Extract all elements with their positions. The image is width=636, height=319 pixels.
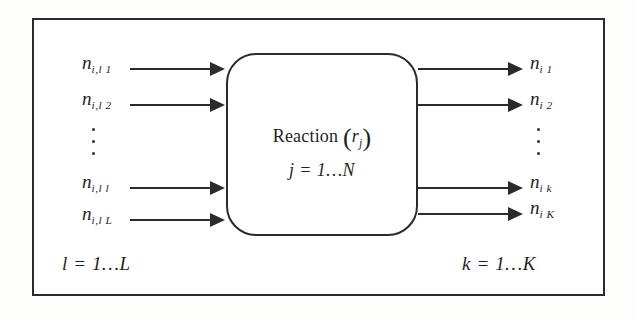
output-arrow-2-line	[418, 104, 508, 106]
input-arrow-1-line	[130, 68, 210, 70]
close-paren: )	[362, 123, 371, 152]
reaction-block-text: Reaction (rj) j = 1…N	[226, 118, 418, 184]
reaction-rate-symbol: rj	[352, 126, 363, 146]
output-arrow-3-line	[418, 187, 508, 189]
input-arrow-2-head	[210, 98, 225, 112]
output-arrow-1	[418, 68, 523, 70]
output-label-4-subscript: i K	[540, 208, 555, 220]
output-arrow-4-line	[418, 213, 508, 215]
input-label-3-subscript: i,l l	[92, 182, 110, 194]
reaction-block-diagram: Reaction (rj) j = 1…N ni,l 1 ni,l 2 ni,l…	[0, 0, 636, 319]
input-label-2: ni,l 2	[82, 88, 112, 111]
input-arrow-4-line	[130, 219, 210, 221]
output-ellipsis-dot-1	[537, 128, 540, 131]
input-ellipsis-dot-2	[92, 140, 95, 143]
input-arrow-3-line	[130, 187, 210, 189]
input-label-2-subscript: i,l 2	[92, 99, 112, 111]
input-vertical-ellipsis	[92, 128, 95, 164]
open-paren: (	[343, 123, 352, 152]
input-arrow-1	[130, 68, 226, 70]
reaction-index-range: j = 1…N	[226, 157, 418, 184]
output-label-4-symbol: n	[530, 197, 540, 218]
reaction-block-title: Reaction (rj)	[226, 118, 418, 157]
output-arrow-1-line	[418, 68, 508, 70]
output-ellipsis-dot-3	[537, 152, 540, 155]
output-arrow-2	[418, 104, 523, 106]
input-range-label: l = 1…L	[62, 253, 131, 275]
output-arrow-1-head	[508, 62, 523, 76]
input-arrow-2	[130, 104, 226, 106]
rate-symbol-base: r	[352, 126, 359, 146]
output-label-1-subscript: i 1	[540, 63, 553, 75]
output-label-2-subscript: i 2	[540, 99, 553, 111]
input-label-4-symbol: n	[82, 203, 92, 224]
output-arrow-2-head	[508, 98, 523, 112]
output-label-2: ni 2	[530, 88, 553, 111]
input-label-3: ni,l l	[82, 171, 109, 194]
input-arrow-1-head	[210, 62, 225, 76]
input-label-2-symbol: n	[82, 88, 92, 109]
input-arrow-3-head	[210, 181, 225, 195]
output-label-3-subscript: i k	[540, 182, 553, 194]
output-arrow-3-head	[508, 181, 523, 195]
output-ellipsis-dot-2	[537, 140, 540, 143]
output-arrow-4-head	[508, 207, 523, 221]
input-label-1-subscript: i,l 1	[92, 63, 112, 75]
reaction-label: Reaction	[273, 126, 339, 146]
output-label-3: ni k	[530, 171, 552, 194]
input-arrow-3	[130, 187, 226, 189]
output-arrow-3	[418, 187, 523, 189]
input-label-1: ni,l 1	[82, 52, 112, 75]
output-vertical-ellipsis	[537, 128, 540, 164]
output-arrow-4	[418, 213, 523, 215]
input-arrow-4	[130, 219, 226, 221]
output-label-2-symbol: n	[530, 88, 540, 109]
input-arrow-2-line	[130, 104, 210, 106]
input-label-3-symbol: n	[82, 171, 92, 192]
input-label-4: ni,l L	[82, 203, 112, 226]
input-arrow-4-head	[210, 213, 225, 227]
input-ellipsis-dot-3	[92, 152, 95, 155]
output-label-1-symbol: n	[530, 52, 540, 73]
output-label-3-symbol: n	[530, 171, 540, 192]
input-label-4-subscript: i,l L	[92, 214, 113, 226]
output-label-4: ni K	[530, 197, 555, 220]
input-ellipsis-dot-1	[92, 128, 95, 131]
output-label-1: ni 1	[530, 52, 553, 75]
input-label-1-symbol: n	[82, 52, 92, 73]
output-range-label: k = 1…K	[462, 253, 536, 275]
